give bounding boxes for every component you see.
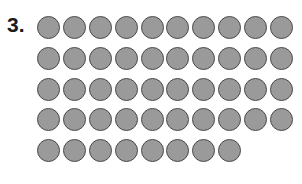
circle-dot-icon (141, 47, 164, 70)
dot-row (37, 108, 296, 132)
circle-dot-icon (244, 16, 267, 39)
circle-dot-icon (270, 16, 293, 39)
circle-dot-icon (192, 139, 215, 162)
circle-dot-icon (115, 139, 138, 162)
circle-dot-icon (244, 78, 267, 101)
circle-dot-icon (244, 47, 267, 70)
circle-dot-icon (115, 47, 138, 70)
circle-dot-icon (115, 108, 138, 131)
circle-dot-icon (89, 108, 112, 131)
circle-dot-icon (63, 16, 86, 39)
circle-dot-icon (166, 139, 189, 162)
circle-dot-icon (218, 47, 241, 70)
circle-dot-icon (192, 108, 215, 131)
dot-row (37, 47, 296, 71)
circle-dot-icon (37, 78, 60, 101)
circle-dot-icon (270, 108, 293, 131)
circle-dot-icon (192, 16, 215, 39)
circle-dot-icon (218, 108, 241, 131)
circle-dot-icon (37, 47, 60, 70)
circle-dot-icon (218, 78, 241, 101)
dot-row (37, 16, 296, 40)
circle-dot-icon (166, 78, 189, 101)
circle-dot-icon (166, 47, 189, 70)
circle-dot-icon (63, 78, 86, 101)
circle-dot-icon (141, 78, 164, 101)
circle-dot-icon (141, 139, 164, 162)
circle-dot-icon (141, 108, 164, 131)
circle-dot-icon (37, 16, 60, 39)
circle-dot-icon (115, 16, 138, 39)
circle-dot-icon (89, 139, 112, 162)
circle-dot-icon (166, 16, 189, 39)
circle-dot-icon (244, 108, 267, 131)
circle-dot-icon (63, 139, 86, 162)
dot-row (37, 139, 296, 163)
circle-dot-icon (166, 108, 189, 131)
circle-dot-icon (270, 47, 293, 70)
circle-dot-icon (89, 78, 112, 101)
problem-number: 3. (7, 13, 25, 37)
circle-dot-icon (270, 78, 293, 101)
circle-dot-icon (141, 16, 164, 39)
circle-dot-icon (192, 78, 215, 101)
circle-dot-icon (89, 47, 112, 70)
circle-dot-icon (115, 78, 138, 101)
circle-dot-icon (218, 16, 241, 39)
dot-row (37, 78, 296, 102)
circle-dot-icon (63, 47, 86, 70)
dot-grid (37, 16, 296, 170)
circle-dot-icon (37, 108, 60, 131)
circle-dot-icon (89, 16, 112, 39)
circle-dot-icon (63, 108, 86, 131)
circle-dot-icon (192, 47, 215, 70)
circle-dot-icon (218, 139, 241, 162)
circle-dot-icon (37, 139, 60, 162)
